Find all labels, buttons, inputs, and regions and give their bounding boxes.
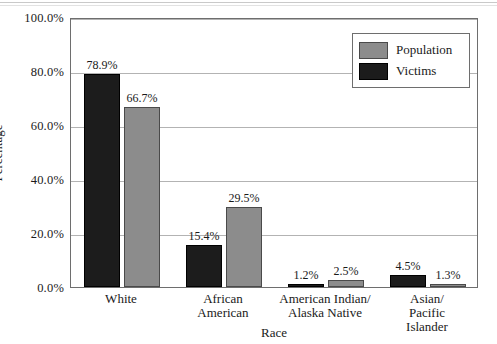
bar-value-label: 1.2% xyxy=(294,268,319,283)
y-axis-tick-label: 20.0% xyxy=(0,227,70,242)
bar-population-1: 29.5% xyxy=(226,207,262,287)
y-axis-tick-label: 60.0% xyxy=(0,119,70,134)
bar-population-3: 1.3% xyxy=(430,284,466,288)
y-axis-tick-label: 80.0% xyxy=(0,65,70,80)
legend-item-victims: Victims xyxy=(359,61,463,81)
top-rule-artifact-secondary xyxy=(0,5,497,6)
bar-population-2: 2.5% xyxy=(328,280,364,287)
bar-value-label: 1.3% xyxy=(436,268,461,283)
y-axis-tick-label: 0.0% xyxy=(0,281,70,296)
bar-victims-2: 1.2% xyxy=(288,284,324,287)
x-axis-tick-label: White xyxy=(105,292,137,306)
x-axis-tick-label: African American xyxy=(197,292,248,320)
y-axis-tick-label: 40.0% xyxy=(0,173,70,188)
bar-value-label: 4.5% xyxy=(396,259,421,274)
bar-value-label: 29.5% xyxy=(229,191,260,206)
bar-victims-0: 78.9% xyxy=(84,74,120,287)
bar-victims-3: 4.5% xyxy=(390,275,426,287)
bar-victims-1: 15.4% xyxy=(186,245,222,287)
legend-label-victims: Victims xyxy=(396,63,436,79)
bar-value-label: 15.4% xyxy=(189,229,220,244)
bar-value-label: 66.7% xyxy=(127,91,158,106)
legend-swatch-population-icon xyxy=(359,42,388,59)
legend-swatch-victims-icon xyxy=(359,63,388,80)
x-axis-tick-label: Asian/ Pacific Islander xyxy=(392,292,462,334)
chart-legend: Population Victims xyxy=(352,33,470,88)
bar-population-0: 66.7% xyxy=(124,107,160,287)
top-rule-artifact xyxy=(0,2,497,3)
y-axis-tick-label: 100.0% xyxy=(0,11,70,26)
bar-value-label: 2.5% xyxy=(334,264,359,279)
x-axis-title: Race xyxy=(261,325,287,341)
legend-label-population: Population xyxy=(396,42,452,58)
legend-item-population: Population xyxy=(359,40,463,60)
bar-chart: Percentage 0.0%20.0%40.0%60.0%80.0%100.0… xyxy=(0,0,497,344)
x-axis-tick-label: American Indian/ Alaska Native xyxy=(279,292,370,320)
bar-value-label: 78.9% xyxy=(87,58,118,73)
gridline xyxy=(71,19,477,20)
